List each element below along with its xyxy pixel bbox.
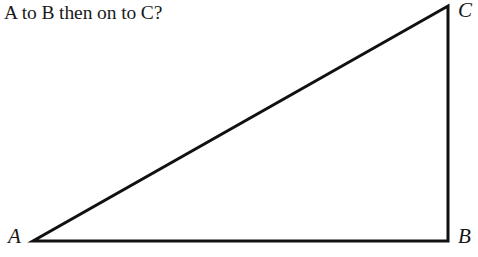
vertex-label-a: A bbox=[8, 226, 21, 247]
vertex-label-b: B bbox=[458, 226, 471, 247]
vertex-label-c: C bbox=[458, 0, 472, 21]
diagram-page: A to B then on to C? A B C bbox=[0, 0, 478, 257]
triangle-figure bbox=[0, 0, 478, 257]
triangle-outline bbox=[33, 6, 448, 241]
